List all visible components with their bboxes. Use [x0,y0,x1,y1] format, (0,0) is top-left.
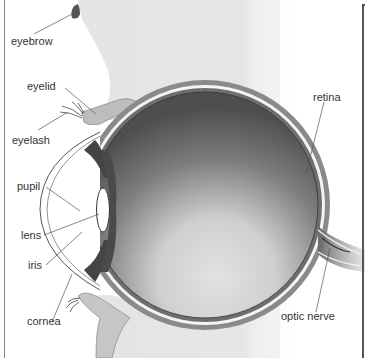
frame-border-left [4,0,5,358]
label-pupil: pupil [17,180,40,193]
frame-border-right [362,4,364,358]
label-eyebrow: eyebrow [11,35,53,48]
label-eyelid: eyelid [27,80,56,93]
eye-cross-section-illustration [0,0,365,358]
eye-diagram: eyebrow eyelid eyelash retina pupil lens… [0,0,365,358]
label-cornea: cornea [27,315,61,328]
label-eyelash: eyelash [12,134,50,147]
lens-shape [97,188,110,232]
lower-eyelashes [66,298,80,312]
vitreous-body [92,92,318,318]
label-optic-nerve: optic nerve [281,310,335,323]
label-lens: lens [21,229,41,242]
upper-eyelashes [60,102,84,118]
eyebrow-hair [71,4,80,19]
label-retina: retina [313,91,341,104]
label-iris: iris [28,259,42,272]
